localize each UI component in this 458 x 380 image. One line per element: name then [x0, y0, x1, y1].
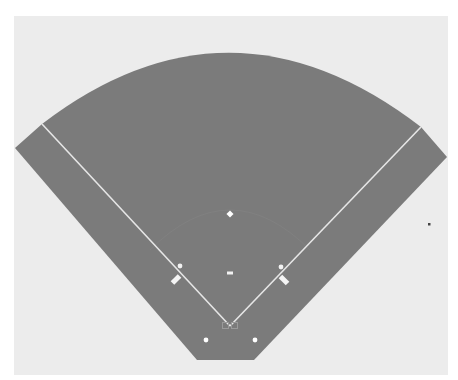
third-base-icon — [178, 264, 183, 269]
left-on-deck-circle-icon — [204, 338, 209, 343]
baseball-field-diagram — [0, 0, 458, 380]
first-base-icon — [279, 265, 284, 270]
right-on-deck-circle-icon — [253, 338, 258, 343]
pitchers-mound-icon — [227, 272, 233, 275]
field-area — [15, 53, 447, 360]
stray-dot — [428, 223, 431, 226]
